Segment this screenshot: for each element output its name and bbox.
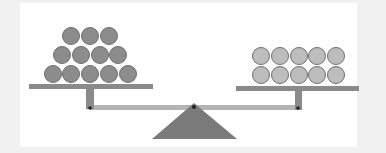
circle: [309, 48, 326, 65]
balance-scale-diagram: [0, 0, 386, 153]
circle: [328, 48, 345, 65]
circle: [63, 66, 80, 83]
circle: [291, 67, 308, 84]
fulcrum-pivot-dot: [192, 105, 196, 109]
circle: [45, 66, 62, 83]
circle: [309, 67, 326, 84]
circle: [63, 28, 80, 45]
circle: [253, 67, 270, 84]
left-circle-group: [45, 28, 137, 83]
circle: [92, 47, 109, 64]
circle: [272, 67, 289, 84]
right-post-pivot-dot: [296, 106, 300, 110]
circle: [120, 66, 137, 83]
circle: [101, 28, 118, 45]
circle: [328, 67, 345, 84]
circle: [272, 48, 289, 65]
circle: [101, 66, 118, 83]
circle: [82, 28, 99, 45]
circle: [73, 47, 90, 64]
left-pan: [29, 84, 153, 89]
circle: [110, 47, 127, 64]
left-pan-post: [86, 89, 94, 109]
circle: [54, 47, 71, 64]
right-circle-group: [253, 48, 345, 84]
right-pan: [236, 86, 359, 91]
circle: [82, 66, 99, 83]
circle: [291, 48, 308, 65]
left-post-pivot-dot: [88, 106, 92, 110]
circle: [253, 48, 270, 65]
